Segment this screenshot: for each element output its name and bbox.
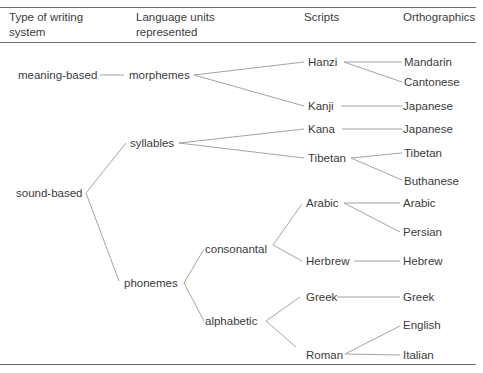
script-tibetan: Tibetan [308,151,346,165]
orth-cantonese: Cantonese [404,75,460,89]
unit-alphabetic: alphabetic [205,314,257,328]
orth-italian: Italian [403,348,434,362]
script-kanji: Kanji [308,99,334,113]
orth-persian: Persian [403,225,442,239]
script-arabic: Arabic [306,196,339,210]
orth-arabic: Arabic [403,196,436,210]
writing-systems-diagram: Type of writing system Language units re… [0,0,483,373]
unit-syllables: syllables [130,136,174,150]
script-roman: Roman [306,348,343,362]
orth-japanese-kana: Japanese [403,122,453,136]
orth-tibetan: Tibetan [404,146,442,160]
orth-hebrew: Hebrew [403,254,443,268]
unit-consonantal: consonantal [205,242,267,256]
script-herbrew: Herbrew [306,254,349,268]
orth-mandarin: Mandarin [404,55,452,69]
unit-morphemes: morphemes [129,68,190,82]
script-kana: Kana [308,122,335,136]
orth-japanese-kanji: Japanese [403,99,453,113]
script-greek: Greek [306,290,337,304]
type-sound-based: sound-based [16,186,83,200]
type-meaning-based: meaning-based [18,68,97,82]
orth-greek: Greek [403,290,434,304]
orth-english: English [403,318,441,332]
script-hanzi: Hanzi [308,55,337,69]
unit-phonemes: phonemes [124,276,178,290]
orth-buthanese: Buthanese [404,174,459,188]
